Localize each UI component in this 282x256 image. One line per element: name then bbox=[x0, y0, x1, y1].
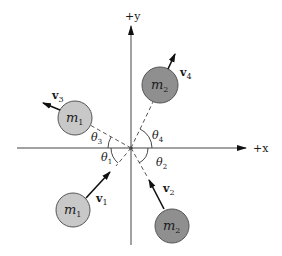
v1-label: v1 bbox=[95, 192, 108, 207]
body-m2-after: m2 v4 bbox=[142, 54, 192, 103]
x-axis-label: +x bbox=[253, 142, 269, 155]
v2-label: v2 bbox=[162, 182, 175, 197]
v4-label: v4 bbox=[179, 66, 192, 81]
trajectory-m2-after bbox=[131, 102, 153, 148]
theta4-label: θ4 bbox=[152, 129, 164, 144]
theta2-arc bbox=[139, 148, 148, 163]
v3-label: v3 bbox=[51, 89, 64, 104]
theta1-label: θ1 bbox=[101, 151, 112, 166]
angle-arcs bbox=[108, 129, 152, 163]
x-axis: +x bbox=[17, 142, 269, 155]
body-m1-after: m1 v3 bbox=[43, 89, 92, 135]
theta3-label: θ3 bbox=[91, 131, 102, 146]
trajectory-m1-before bbox=[116, 148, 131, 166]
theta4-arc bbox=[140, 129, 152, 148]
theta3-arc bbox=[108, 137, 111, 148]
velocity-v3-arrow bbox=[43, 103, 60, 110]
body-m2-before: m2 v2 bbox=[149, 180, 189, 243]
body-m1-before: m1 v1 bbox=[56, 172, 110, 227]
y-axis-label: +y bbox=[125, 10, 141, 23]
y-axis: +y bbox=[125, 10, 141, 245]
theta2-label: θ2 bbox=[156, 156, 167, 171]
velocity-v4-arrow bbox=[168, 54, 175, 69]
velocity-v2-arrow bbox=[149, 180, 164, 209]
collision-diagram: +x +y θ3 θ1 θ4 θ2 m1 bbox=[0, 0, 282, 256]
